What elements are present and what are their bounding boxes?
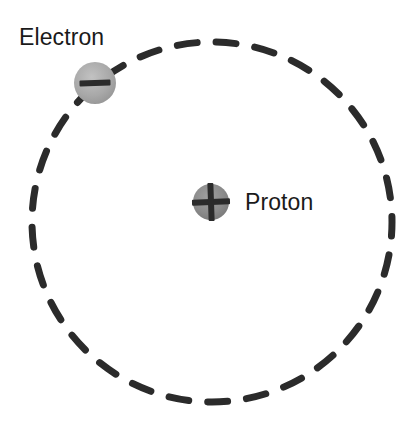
proton-label: Proton	[245, 191, 313, 214]
electron-label: Electron	[19, 26, 104, 49]
minus-sign-icon	[79, 80, 110, 87]
electron-particle	[74, 62, 116, 104]
plus-sign-icon	[191, 182, 230, 221]
atom-diagram-canvas	[0, 0, 418, 431]
proton-particle	[191, 182, 230, 221]
atom-diagram: Electron Proton	[0, 0, 418, 431]
